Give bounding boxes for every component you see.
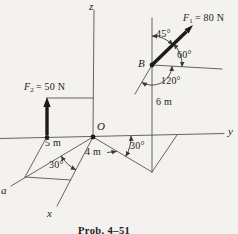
x-axis-label: x xyxy=(47,208,52,219)
angle-30-right-label: 30° xyxy=(130,141,145,151)
ground-parallel-line xyxy=(25,177,71,180)
b-point-label: B xyxy=(138,58,145,69)
angle-30-left-label: 30° xyxy=(49,160,64,170)
dim-5m-label: 5 m xyxy=(45,138,61,148)
dim-4m-label: 4 m xyxy=(85,147,101,157)
z-axis-label: z xyxy=(89,1,93,12)
figure-caption: Prob. 4–51 xyxy=(78,226,130,234)
statics-problem-figure: z y x a O B F1= 80 N F2= 50 N 45° 60° 12… xyxy=(0,0,238,234)
origin-label: O xyxy=(97,121,105,132)
f2-arrow-head xyxy=(43,97,50,107)
dim-4m-leader-arrow xyxy=(107,152,117,153)
z-axis xyxy=(93,10,94,137)
a-axis-label: a xyxy=(1,185,7,196)
f2-value: = 50 N xyxy=(36,81,65,92)
b-horizontal-line xyxy=(152,65,222,69)
f1-value: = 80 N xyxy=(195,12,224,23)
angle-60-label: 60° xyxy=(177,50,192,60)
ground-to-y-line xyxy=(152,135,177,172)
f2-force-label: F2= 50 N xyxy=(24,82,65,94)
f1-force-label: F1= 80 N xyxy=(183,13,224,25)
f1-subscript: 1 xyxy=(189,17,193,25)
y-axis-label: y xyxy=(228,126,233,137)
origin-point xyxy=(91,135,96,140)
f1-extension-line xyxy=(135,65,152,94)
diagram-linework xyxy=(0,0,238,234)
angle-45-label: 45° xyxy=(156,29,171,39)
dim-6m-label: 6 m xyxy=(156,97,172,107)
y-axis xyxy=(0,134,224,139)
f2-subscript: 2 xyxy=(30,86,34,94)
angle-120-label: 120° xyxy=(161,76,181,86)
